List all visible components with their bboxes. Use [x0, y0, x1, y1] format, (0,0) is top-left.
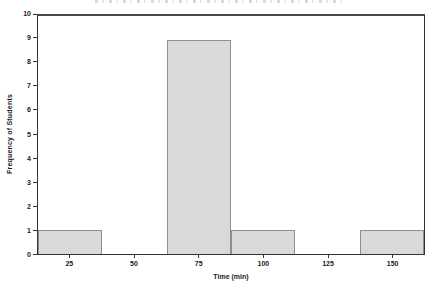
x-tick-label: 125	[322, 260, 334, 267]
histogram-bar	[360, 230, 424, 254]
x-tick-mark	[263, 255, 264, 258]
y-tick-label: 3	[0, 179, 31, 187]
histogram-bar	[38, 230, 102, 254]
x-axis-title: Time (min)	[37, 273, 425, 280]
y-tick-label: 1	[0, 227, 31, 235]
x-tick-label: 100	[257, 260, 269, 267]
y-axis-tick-labels: 012345678910	[0, 14, 31, 255]
x-tick-label: 50	[130, 260, 138, 267]
y-tick-label: 6	[0, 106, 31, 114]
x-tick-mark	[328, 255, 329, 258]
x-tick-mark	[134, 255, 135, 258]
y-tick-label: 0	[0, 251, 31, 259]
histogram-figure: Frequency of Students 012345678910 25507…	[0, 0, 436, 287]
x-tick-label: 25	[65, 260, 73, 267]
histogram-bar	[231, 230, 295, 254]
y-tick-label: 2	[0, 203, 31, 211]
x-axis-tick-marks	[37, 255, 425, 259]
y-tick-label: 5	[0, 131, 31, 139]
x-axis-tick-labels: 255075100125150	[37, 260, 425, 269]
plot-area	[37, 14, 425, 255]
x-tick-label: 150	[387, 260, 399, 267]
y-tick-label: 8	[0, 58, 31, 66]
y-tick-label: 4	[0, 155, 31, 163]
y-tick-label: 9	[0, 34, 31, 42]
cropped-title-remnant	[95, 0, 345, 3]
x-tick-mark	[198, 255, 199, 258]
histogram-bar	[167, 40, 231, 254]
x-tick-label: 75	[195, 260, 203, 267]
y-tick-label: 7	[0, 82, 31, 90]
x-tick-mark	[69, 255, 70, 258]
y-tick-label: 10	[0, 10, 31, 18]
x-tick-mark	[392, 255, 393, 258]
